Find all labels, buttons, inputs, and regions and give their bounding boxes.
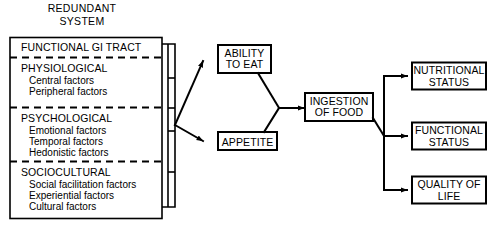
panel-section-3-item-0: Social facilitation factors	[29, 179, 136, 190]
node-quality-of-life-line1: QUALITY OF	[417, 178, 480, 190]
panel-section-1-heading: PHYSIOLOGICAL	[21, 62, 108, 74]
panel-section-2-item-0: Emotional factors	[29, 125, 106, 136]
panel-section-3-item-2: Cultural factors	[29, 201, 96, 212]
panel-section-3-heading: SOCIOCULTURAL	[21, 166, 111, 178]
figure-title-line2: SYSTEM	[60, 15, 105, 27]
node-ingestion-of-food-line2: OF FOOD	[315, 106, 364, 118]
panel-section-0-heading: FUNCTIONAL GI TRACT	[21, 41, 142, 53]
panel-section-3-item-1: Experiential factors	[29, 190, 114, 201]
node-functional-status-line2: STATUS	[429, 136, 469, 148]
figure-title-line1: REDUNDANT	[48, 2, 117, 14]
node-functional-status-line1: FUNCTIONAL	[415, 124, 483, 136]
node-appetite-line1: APPETITE	[222, 136, 274, 148]
node-ability-to-eat-line2: TO EAT	[226, 58, 264, 70]
panel-to-nodes-connectors	[175, 61, 203, 141]
node-ability-to-eat-line1: ABILITY	[225, 47, 265, 59]
panel-section-2-item-1: Temporal factors	[29, 136, 103, 147]
panel-grouping-bracket	[162, 44, 175, 207]
panel-section-2-item-2: Hedonistic factors	[29, 147, 108, 158]
panel-section-2-heading: PSYCHOLOGICAL	[21, 112, 112, 124]
node-nutritional-status-line1: NUTRITIONAL	[413, 64, 484, 76]
node-quality-of-life-line2: LIFE	[438, 190, 461, 202]
panel-section-1-item-0: Central factors	[29, 75, 94, 86]
node-ingestion-of-food-line1: INGESTION	[310, 95, 369, 107]
diagram-canvas: REDUNDANT SYSTEM FUNCTIONAL GI TRACT PHY…	[0, 0, 494, 231]
ingestion-to-outcomes-connectors	[373, 76, 407, 190]
panel-section-1-item-1: Peripheral factors	[29, 86, 107, 97]
nodes-to-ingestion-connectors	[258, 73, 304, 132]
node-nutritional-status-line2: STATUS	[429, 76, 469, 88]
flowchart-diagram: REDUNDANT SYSTEM FUNCTIONAL GI TRACT PHY…	[0, 0, 494, 231]
